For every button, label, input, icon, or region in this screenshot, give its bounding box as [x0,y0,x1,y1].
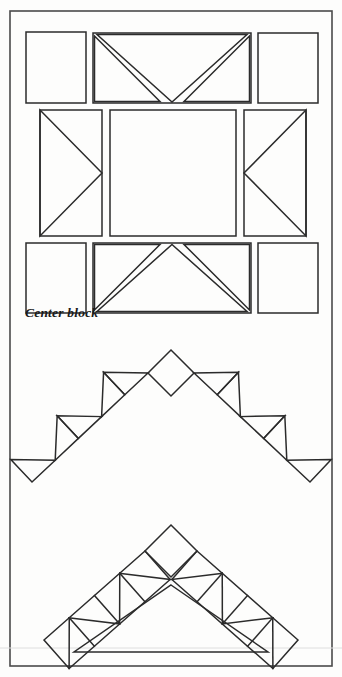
chevron-solid-left-divider-3 [69,618,94,647]
chevron-open-left-triangle-5 [11,459,55,482]
chevron-solid-left-divider-1 [120,573,145,602]
cell-corner-top-left [26,32,86,103]
chevron-open-right-triangle-4 [264,416,287,460]
cell-corner-bottom-right [258,243,318,313]
chevron-solid-left-divider-2 [95,596,120,625]
chevron-solid-right-divider-3 [248,618,273,647]
chevron-solid-right-diagonal-1 [172,573,222,579]
cell-left-side-triangle-outline [40,110,102,236]
cell-bottom-center-geese-outline [93,243,251,313]
chevron-solid-left-diagonal-1 [120,573,170,579]
chevron-open-left-triangle-4 [55,416,78,460]
chevron-open-right-triangle-5 [287,459,331,482]
center-block-diagram [26,32,318,313]
diagram-page: Center block [0,0,342,677]
chevron-solid-right-divider-2 [222,596,247,625]
quilt-pattern-svg [0,0,342,677]
cell-right-side-triangle-triangle [244,110,306,236]
chevron-solid-right-diagonal-3 [222,618,272,624]
cell-top-center-geese-left-triangle [95,36,161,102]
chevron-open-left-triangle-1 [104,372,148,395]
sawtooth-chevron-solid [44,525,298,669]
cell-corner-bottom-left [26,243,86,313]
cell-bottom-center-geese-right-triangle [184,245,250,311]
cell-left-side-triangle-triangle [40,110,102,236]
cell-corner-top-right [258,33,318,103]
cell-top-center-geese-center-triangle [97,35,247,103]
chevron-open-apex-diamond [148,350,194,396]
cell-top-center-geese-right-triangle [184,36,250,102]
chevron-solid-right-divider-1 [197,573,222,602]
chevron-open-left-triangle-3 [57,416,101,439]
chevron-open-right-triangle-2 [217,372,240,416]
center-block-caption: Center block [25,305,98,321]
chevron-open-right-triangle-3 [240,416,284,439]
chevron-solid-inner-triangle [74,585,268,652]
cell-top-center-geese-outline [93,33,251,103]
cell-center-square [110,110,236,236]
chevron-solid-left-diagonal-3 [69,618,119,624]
sawtooth-chevron-open [11,350,331,482]
chevron-solid-apex-diamond [145,525,197,577]
cell-right-side-triangle-outline [244,110,306,236]
chevron-open-left-triangle-2 [102,372,125,416]
chevron-open-right-triangle-1 [194,372,238,395]
cell-bottom-center-geese-left-triangle [95,245,161,311]
cell-bottom-center-geese-center-triangle [97,245,247,312]
